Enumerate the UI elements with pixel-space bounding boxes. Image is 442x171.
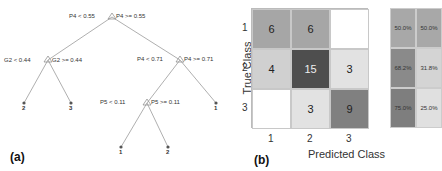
split-label: P4 < 0.55 <box>69 13 95 19</box>
cm-cell <box>330 9 369 49</box>
cm-cell: 6 <box>291 9 330 49</box>
cm-cell: 9 <box>330 89 369 129</box>
node-triangle-icon <box>108 13 116 19</box>
rs-cell: 25.0% <box>416 88 442 128</box>
rs-cell: 50.0% <box>390 8 416 48</box>
x-axis-title: Predicted Class <box>308 148 385 160</box>
decision-tree <box>0 0 235 171</box>
row-tick: 1 <box>242 22 248 33</box>
node-triangle-icon <box>44 56 52 62</box>
row-tick: 3 <box>242 102 248 113</box>
cm-cell: 3 <box>291 89 330 129</box>
cm-cell: 15 <box>291 49 330 89</box>
split-label: G2 >= 0.44 <box>52 57 82 63</box>
cm-cell <box>252 89 291 129</box>
cm-cell: 6 <box>252 9 291 49</box>
cm-cell: 3 <box>330 49 369 89</box>
split-label: P4 >= 0.55 <box>116 13 145 19</box>
node-triangle-icon <box>176 56 184 62</box>
confusion-matrix: 6 6 4 15 3 3 9 <box>251 8 368 128</box>
split-label: G2 < 0.44 <box>4 57 31 63</box>
leaf-label: 3 <box>69 105 72 111</box>
leaf-label: 2 <box>166 149 169 155</box>
rs-cell: 68.2% <box>390 48 416 88</box>
split-label: P4 < 0.71 <box>137 56 163 62</box>
col-tick: 1 <box>268 133 274 144</box>
leaf-label: 2 <box>22 105 25 111</box>
split-label: P4 >= 0.71 <box>184 56 213 62</box>
panel-label-a: (a) <box>10 150 25 164</box>
rs-cell: 31.8% <box>416 48 442 88</box>
panel-label-b: (b) <box>254 153 269 167</box>
row-summary: 50.0% 50.0% 68.2% 31.8% 75.0% 25.0% <box>390 8 442 128</box>
leaf-label: 1 <box>214 105 217 111</box>
split-label: P5 < 0.11 <box>100 99 125 105</box>
col-tick: 3 <box>346 133 352 144</box>
row-tick: 2 <box>242 62 248 73</box>
rs-cell: 75.0% <box>390 88 416 128</box>
leaf-label: 1 <box>119 149 122 155</box>
col-tick: 2 <box>307 133 313 144</box>
rs-cell: 50.0% <box>416 8 442 48</box>
cm-cell: 4 <box>252 49 291 89</box>
split-label: P5 >= 0.11 <box>151 99 180 105</box>
